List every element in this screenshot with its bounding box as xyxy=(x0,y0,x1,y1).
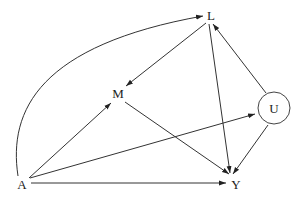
node-label-u: U xyxy=(269,101,279,116)
edge-l-to-y xyxy=(209,24,230,173)
node-y: Y xyxy=(231,177,241,192)
node-a: A xyxy=(17,177,27,192)
node-label-y: Y xyxy=(231,177,241,192)
node-l: L xyxy=(207,8,215,23)
node-label-a: A xyxy=(17,177,27,192)
edge-l-to-m xyxy=(126,23,206,86)
node-label-m: M xyxy=(112,86,124,101)
node-m: M xyxy=(112,86,124,101)
edge-m-to-y xyxy=(125,102,229,174)
causal-diagram: L M U A Y xyxy=(0,0,307,199)
edge-u-to-y xyxy=(233,125,268,174)
node-u: U xyxy=(258,92,290,124)
node-label-l: L xyxy=(207,8,215,23)
edge-u-to-l xyxy=(213,24,266,93)
edge-a-to-l xyxy=(16,16,203,176)
